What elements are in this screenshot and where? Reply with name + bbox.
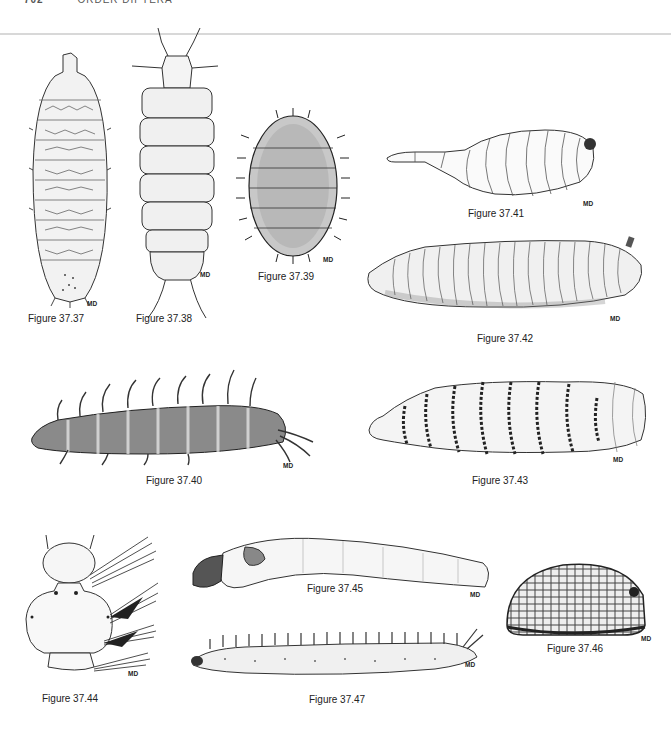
artist-mark: MD [465, 661, 475, 668]
figure-37-38: MD [130, 28, 225, 323]
artist-mark: MD [283, 462, 293, 469]
page-number: 702 [24, 0, 44, 5]
figure-37-37: MD [25, 50, 115, 310]
artist-mark: MD [610, 315, 620, 322]
larva-antennae-illustration-icon [130, 28, 225, 323]
artist-mark: MD [641, 635, 651, 642]
figure-37-40: MD [28, 370, 318, 465]
figure-37-42: MD [365, 235, 645, 315]
artist-mark: MD [128, 670, 138, 677]
caption-37-38: Figure 37.38 [136, 313, 192, 324]
artist-mark: MD [613, 456, 623, 463]
caption-37-43: Figure 37.43 [472, 475, 528, 486]
caption-37-39: Figure 37.39 [258, 271, 314, 282]
spiny-process-larva-illustration-icon [28, 370, 318, 465]
artist-mark: MD [200, 271, 210, 278]
figure-37-39: MD [238, 108, 348, 268]
artist-mark: MD [470, 591, 480, 598]
caption-37-37: Figure 37.37 [28, 313, 84, 324]
puparium-illustration-icon [503, 555, 653, 640]
caption-37-41: Figure 37.41 [468, 208, 524, 219]
figure-37-41: MD [385, 120, 605, 200]
figure-37-44: MD [18, 535, 158, 685]
spiny-oval-larva-illustration-icon [238, 108, 348, 268]
figure-37-43: MD [365, 368, 650, 463]
figure-37-47: MD [185, 625, 490, 685]
larva-dorsal-illustration-icon [25, 50, 115, 310]
wrinkled-maggot-illustration-icon [365, 235, 645, 315]
caption-37-40: Figure 37.40 [146, 475, 202, 486]
caption-37-45: Figure 37.45 [307, 583, 363, 594]
artist-mark: MD [323, 256, 333, 263]
caption-37-47: Figure 37.47 [309, 694, 365, 705]
running-head: ORDER DIPTERA [77, 0, 172, 5]
artist-mark: MD [87, 300, 97, 307]
header-rule [0, 33, 671, 35]
caption-37-44: Figure 37.44 [42, 693, 98, 704]
caption-37-46: Figure 37.46 [547, 643, 603, 654]
banded-spine-larva-illustration-icon [365, 368, 650, 463]
artist-mark: MD [583, 200, 593, 207]
figure-37-46: MD [503, 555, 653, 640]
slender-setose-larva-illustration-icon [185, 625, 490, 685]
caption-37-42: Figure 37.42 [477, 333, 533, 344]
larval-head-thorax-illustration-icon [18, 535, 158, 685]
running-header: 702 ORDER DIPTERA [24, 0, 173, 5]
smooth-larva-illustration-icon [385, 120, 605, 200]
